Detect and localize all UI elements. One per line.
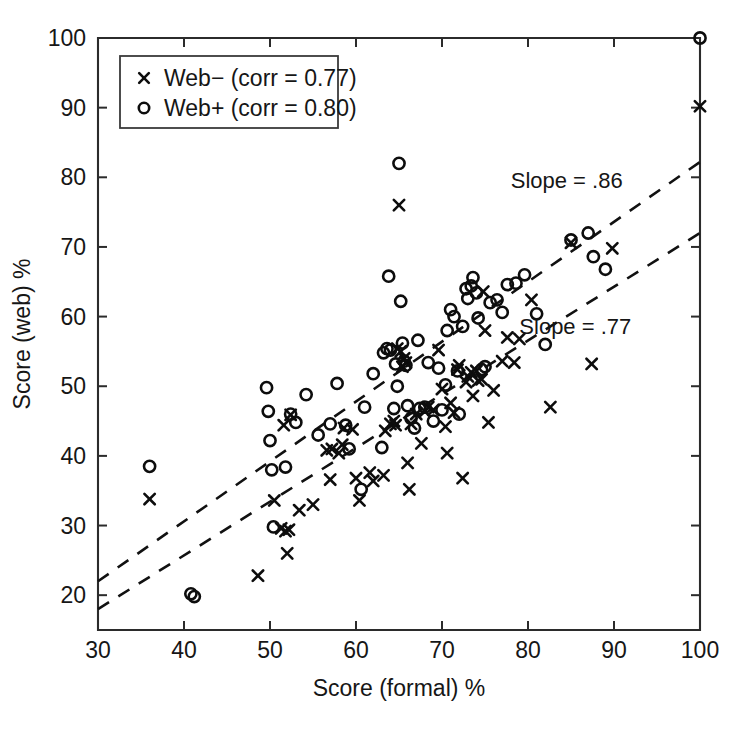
data-point-circle	[331, 378, 342, 389]
y-axis-title: Score (web) %	[9, 259, 35, 410]
data-point-circle	[301, 389, 312, 400]
y-tick-label: 90	[60, 95, 86, 121]
y-tick-label: 30	[60, 513, 86, 539]
x-tick-label: 100	[681, 637, 719, 663]
data-point-circle	[428, 415, 439, 426]
data-point-circle	[144, 461, 155, 472]
data-point-circle	[325, 418, 336, 429]
plot-canvas: 30405060708090100 2030405060708090100 Sc…	[0, 0, 753, 736]
data-point-circle	[433, 363, 444, 374]
slope-annotation: Slope = .77	[519, 314, 631, 339]
legend-label: Web+ (corr = 0.80)	[164, 95, 357, 121]
x-tick-label: 40	[171, 637, 197, 663]
y-tick-label: 60	[60, 304, 86, 330]
x-tick-label: 50	[257, 637, 283, 663]
y-tick-label: 20	[60, 582, 86, 608]
legend: Web− (corr = 0.77)Web+ (corr = 0.80)	[120, 56, 357, 128]
data-point-circle	[383, 271, 394, 282]
data-point-circle	[436, 404, 447, 415]
data-point-circle	[359, 402, 370, 413]
slope-annotations: Slope = .86Slope = .77	[511, 168, 632, 339]
x-tick-label: 90	[601, 637, 627, 663]
data-point-circle	[313, 429, 324, 440]
y-tick-label: 100	[48, 25, 86, 51]
data-point-circle	[395, 296, 406, 307]
slope-annotation: Slope = .86	[511, 168, 623, 193]
data-point-circle	[266, 464, 277, 475]
data-point-circle	[356, 484, 367, 495]
data-point-circle	[268, 521, 279, 532]
scatter-plot-figure: 30405060708090100 2030405060708090100 Sc…	[0, 0, 753, 736]
data-point-circle	[600, 264, 611, 275]
data-point-circle	[261, 382, 272, 393]
trendline-group	[98, 162, 700, 609]
data-point-circle	[540, 339, 551, 350]
y-axis-tick-labels: 2030405060708090100	[48, 25, 86, 608]
data-point-circle	[412, 335, 423, 346]
data-point-circle	[519, 269, 530, 280]
data-point-circle	[485, 297, 496, 308]
x-axis-tick-labels: 30405060708090100	[85, 637, 719, 663]
data-point-circle	[376, 442, 387, 453]
x-tick-label: 80	[515, 637, 541, 663]
y-tick-label: 50	[60, 373, 86, 399]
x-tick-label: 60	[343, 637, 369, 663]
x-tick-label: 70	[429, 637, 455, 663]
data-point-circle	[393, 158, 404, 169]
data-point-circle	[264, 435, 275, 446]
data-point-circle	[442, 325, 453, 336]
data-point-circle	[388, 403, 399, 414]
data-point-circle	[263, 406, 274, 417]
y-tick-label: 40	[60, 443, 86, 469]
data-point-circle	[497, 307, 508, 318]
data-point-circle	[583, 227, 594, 238]
y-tick-label: 70	[60, 234, 86, 260]
x-axis-title: Score (formal) %	[313, 675, 486, 701]
data-point-circle	[368, 368, 379, 379]
data-point-circle	[588, 251, 599, 262]
data-point-circle	[280, 461, 291, 472]
data-point-circle	[392, 381, 403, 392]
x-tick-label: 30	[85, 637, 111, 663]
y-tick-label: 80	[60, 164, 86, 190]
data-point-circle	[402, 400, 413, 411]
legend-label: Web− (corr = 0.77)	[164, 65, 357, 91]
